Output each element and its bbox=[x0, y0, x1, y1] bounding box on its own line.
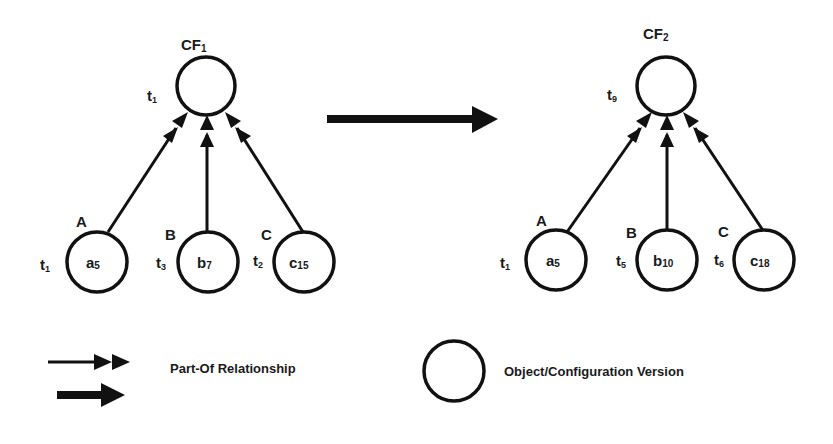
object-name-label: C bbox=[261, 226, 272, 243]
config-timestamp: t9 bbox=[607, 86, 617, 104]
part-of-edge-c bbox=[225, 112, 303, 232]
part-of-edge-c bbox=[683, 112, 764, 232]
config-version-node bbox=[177, 57, 235, 115]
legend-version-label: Object/Configuration Version bbox=[504, 364, 684, 379]
part-of-edge-b bbox=[660, 115, 674, 232]
legend-part-of-label: Part-Of Relationship bbox=[170, 361, 296, 376]
object-timestamp: t2 bbox=[253, 252, 263, 270]
object-name-label: C bbox=[718, 223, 729, 240]
object-name-label: A bbox=[76, 213, 87, 230]
transition-arrow bbox=[327, 106, 498, 133]
object-name-label: A bbox=[536, 212, 547, 229]
legend-version-circle-icon bbox=[424, 341, 484, 401]
object-timestamp: t6 bbox=[714, 251, 724, 269]
left-configuration: CF1 t1 A a5 t1 B b7 t3 C c15 t2 bbox=[40, 36, 334, 292]
diagram-canvas: CF1 t1 A a5 t1 B b7 t3 C c15 t2 bbox=[0, 0, 833, 444]
config-label: CF2 bbox=[643, 25, 669, 43]
legend-thick-arrow-icon bbox=[57, 383, 125, 407]
legend-part-of-double-arrow-icon bbox=[48, 354, 130, 370]
legend: Part-Of Relationship Object/Configuratio… bbox=[48, 341, 684, 407]
config-version-node bbox=[637, 57, 695, 115]
config-label: CF1 bbox=[181, 36, 207, 54]
object-timestamp: t1 bbox=[500, 254, 510, 272]
part-of-edge-b bbox=[200, 115, 214, 232]
part-of-edge-a bbox=[108, 112, 188, 232]
object-timestamp: t3 bbox=[156, 254, 166, 272]
object-name-label: B bbox=[165, 226, 176, 243]
part-of-edge-a bbox=[567, 112, 652, 232]
object-timestamp: t1 bbox=[40, 256, 50, 274]
object-name-label: B bbox=[626, 224, 637, 241]
right-configuration: CF2 t9 A a5 t1 B b10 t5 C c18 t6 bbox=[500, 25, 794, 290]
object-timestamp: t5 bbox=[616, 252, 626, 270]
config-timestamp: t1 bbox=[147, 87, 157, 105]
